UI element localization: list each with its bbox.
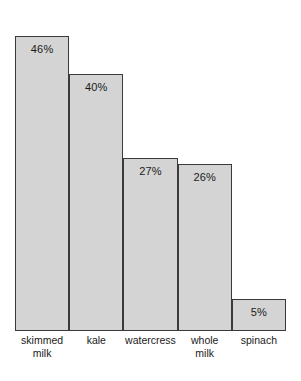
bar-value-label: 27% [124,165,176,177]
bar-value-label: 40% [70,81,122,93]
bar-value-label: 26% [179,171,231,183]
bar-rect[interactable]: 46% [15,36,69,331]
bar-value-label: 46% [16,43,68,55]
category-label: whole milk [178,334,232,360]
category-label: skimmed milk [15,334,69,360]
bar-rect[interactable]: 27% [123,158,177,331]
bar-group: 46% [15,10,69,331]
bar-rect[interactable]: 5% [232,299,286,331]
bar-rect[interactable]: 26% [178,164,232,331]
bar-group: 40% [69,10,123,331]
bar-value-label: 5% [233,306,285,318]
bar-rect[interactable]: 40% [69,74,123,331]
category-label: spinach [232,334,286,347]
bar-group: 5% [232,10,286,331]
category-axis: skimmed milk kale watercress whole milk … [15,334,286,378]
category-label: watercress [123,334,177,347]
bar-group: 27% [123,10,177,331]
category-label: kale [69,334,123,347]
bar-group: 26% [178,10,232,331]
plot-area: 46% 40% 27% 26% 5% [15,10,286,331]
bar-chart: 46% 40% 27% 26% 5% skimmed milk kale [0,0,301,381]
